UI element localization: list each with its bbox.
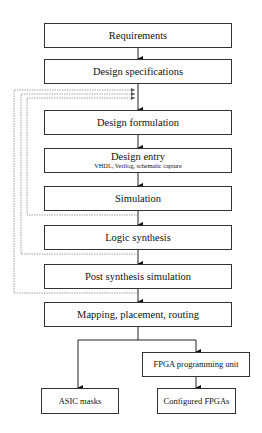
node-design-specifications: Design specifications (44, 59, 232, 84)
node-label: Configured FPGAs (164, 397, 230, 406)
node-label: FPGA programming unit (153, 360, 238, 369)
node-label: Mapping, placement, routing (77, 309, 199, 320)
node-mapping: Mapping, placement, routing (44, 302, 232, 327)
node-label: Design specifications (93, 66, 183, 77)
node-configured-fpgas: Configured FPGAs (157, 388, 236, 414)
node-label: Requirements (109, 30, 167, 41)
node-label: Design entry (111, 151, 165, 162)
node-label: ASIC masks (59, 397, 102, 406)
node-label: Simulation (115, 193, 161, 204)
node-requirements: Requirements (44, 23, 232, 48)
node-label: Post synthesis simulation (85, 271, 191, 282)
node-asic-masks: ASIC masks (41, 388, 119, 414)
node-logic-synthesis: Logic synthesis (44, 225, 232, 250)
node-sublabel: VHDL, Verilog, schematic capture (94, 163, 182, 170)
node-label: Design formulation (97, 117, 179, 128)
node-post-synthesis-simulation: Post synthesis simulation (44, 264, 232, 289)
node-fpga-programming-unit: FPGA programming unit (142, 352, 250, 377)
node-simulation: Simulation (44, 186, 232, 211)
node-design-entry: Design entry VHDL, Verilog, schematic ca… (44, 148, 232, 173)
node-label: Logic synthesis (105, 232, 171, 243)
node-design-formulation: Design formulation (44, 110, 232, 135)
